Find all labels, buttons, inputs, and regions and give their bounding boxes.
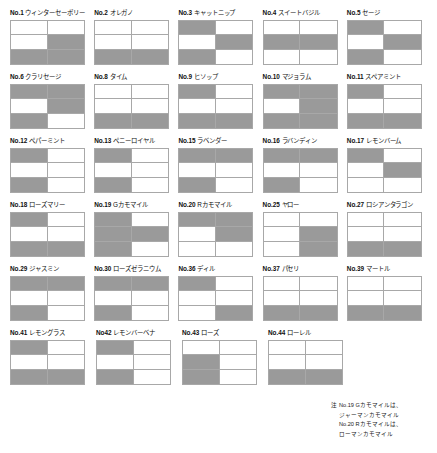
plot-cell [264, 306, 301, 320]
plot-cell [95, 306, 132, 320]
chart-label: オレガノ [110, 9, 134, 16]
plot-cell [216, 306, 253, 320]
plot-cell [11, 370, 48, 384]
chart-plot [10, 340, 85, 385]
plot-cell [95, 149, 132, 163]
chart-item: No.11 スペアミント [347, 72, 431, 129]
plot-cell [216, 178, 253, 192]
plot-cell [384, 35, 421, 49]
plot-cell [348, 50, 385, 64]
chart-plot [10, 212, 85, 257]
chart-caption: No.39 マートル [347, 264, 425, 273]
chart-number: No.36 [178, 265, 195, 272]
plot-cell [384, 21, 421, 35]
plot-cell [48, 35, 85, 49]
chart-caption: No.25 ヤロー [263, 200, 341, 209]
chart-item: No.29 ジャスミン [10, 264, 94, 321]
chart-caption: No.36 ディル [178, 264, 256, 273]
chart-grid: No.1 ウィンターセーボリーNo.2 オレガノNo.3 キャットニップNo.4… [10, 8, 431, 385]
plot-cell [97, 370, 134, 384]
plot-cell [384, 213, 421, 227]
plot-cell [11, 341, 48, 355]
plot-cell [48, 50, 85, 64]
chart-item: No.8 タイム [94, 72, 178, 129]
chart-caption: No.19 Gカモマイル [94, 200, 172, 209]
plot-cell [179, 35, 216, 49]
chart-caption: No.27 ロシアンタラゴン [347, 200, 425, 209]
chart-number: No.27 [347, 201, 364, 208]
chart-item: No.19 Gカモマイル [94, 200, 178, 257]
plot-cell [300, 99, 337, 113]
plot-cell [179, 50, 216, 64]
plot-cell [220, 355, 257, 369]
plot-cell [132, 21, 169, 35]
plot-cell [95, 85, 132, 99]
chart-item: No.6 クラリセージ [10, 72, 94, 129]
footnote-mark: 注 [331, 401, 337, 410]
chart-plot [94, 84, 169, 129]
plot-cell [384, 99, 421, 113]
plot-cell [264, 227, 301, 241]
chart-caption: No.12 ペパーミント [10, 136, 88, 145]
chart-item: No.16 ラバンディン [263, 136, 347, 193]
plot-cell [300, 35, 337, 49]
chart-plot [263, 20, 338, 65]
chart-plot [268, 340, 343, 385]
plot-cell [132, 178, 169, 192]
chart-row: No.29 ジャスミンNo.30 ローズゼラニウムNo.36 ディルNo.37 … [10, 264, 431, 321]
plot-cell [348, 213, 385, 227]
plot-cell [97, 341, 134, 355]
chart-number: No.10 [263, 73, 280, 80]
plot-cell [306, 355, 343, 369]
plot-cell [132, 163, 169, 177]
plot-cell [216, 291, 253, 305]
plot-cell [97, 355, 134, 369]
chart-label: ロシアンタラゴン [366, 201, 414, 208]
chart-label: パセリ [282, 265, 300, 272]
chart-label: マートル [366, 265, 390, 272]
chart-number: No.44 [268, 329, 285, 336]
plot-cell [300, 306, 337, 320]
chart-label: ヤロー [282, 201, 300, 208]
plot-cell [384, 85, 421, 99]
chart-label: クラリセージ [25, 73, 61, 80]
plot-cell [132, 50, 169, 64]
chart-item: No.4 スイートバジル [263, 8, 347, 65]
plot-cell [132, 149, 169, 163]
plot-cell [264, 85, 301, 99]
chart-caption: No.16 ラバンディン [263, 136, 341, 145]
chart-item: No.2 オレガノ [94, 8, 178, 65]
plot-cell [132, 35, 169, 49]
plot-cell [132, 99, 169, 113]
chart-plot [263, 84, 338, 129]
chart-number: No.13 [94, 137, 111, 144]
plot-cell [300, 213, 337, 227]
plot-cell [179, 306, 216, 320]
plot-cell [179, 242, 216, 256]
plot-cell [11, 291, 48, 305]
chart-label: キャットニップ [194, 9, 236, 16]
plot-cell [48, 227, 85, 241]
plot-cell [48, 178, 85, 192]
chart-item: No.9 ヒソップ [178, 72, 262, 129]
chart-plot [178, 148, 253, 193]
chart-label: レモンバーベナ [113, 329, 155, 336]
footnote-line-4: ローマンカモマイル [331, 430, 433, 439]
plot-cell [264, 149, 301, 163]
chart-number: No.4 [263, 9, 277, 16]
chart-number: No.12 [10, 137, 27, 144]
chart-caption: No.17 レモンバーム [347, 136, 425, 145]
plot-cell [179, 227, 216, 241]
chart-caption: No.4 スイートバジル [263, 8, 341, 17]
chart-plot [347, 20, 422, 65]
chart-item: No.12 ペパーミント [10, 136, 94, 193]
chart-caption: No.18 ローズマリー [10, 200, 88, 209]
chart-plot [347, 276, 422, 321]
plot-cell [348, 227, 385, 241]
plot-cell [216, 227, 253, 241]
plot-cell [216, 50, 253, 64]
plot-cell [264, 21, 301, 35]
plot-cell [348, 291, 385, 305]
chart-plot [182, 340, 257, 385]
chart-item: No.41 レモングラス [10, 328, 96, 385]
